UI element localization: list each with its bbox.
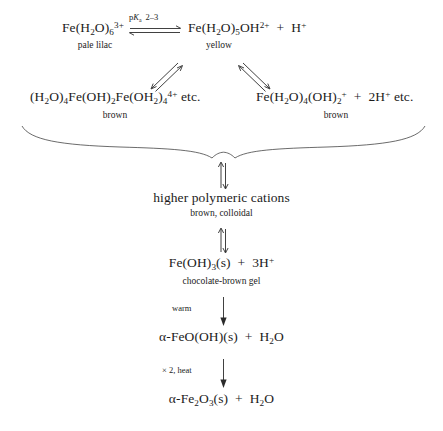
phase-label-brown-colloidal: brown, colloidal [0, 208, 443, 218]
converging-brace [22, 126, 425, 158]
arrow-to-goethite [220, 297, 226, 326]
species-dihydroxo-bridged-dimer: (H2O)4Fe(OH)2Fe(OH2)44+ etc. [30, 89, 201, 106]
condition-warm: warm [172, 303, 191, 313]
species-hexaaquairon: Fe(H2O)63+ [62, 20, 124, 37]
species-goethite: α-FeO(OH)(s) + H2O [0, 329, 443, 346]
top-equilibrium-arrow [129, 26, 181, 35]
phase-label-dihydroxo-brown: brown [256, 110, 416, 120]
phase-label-dimer-brown: brown [30, 110, 200, 120]
species-pentaaquahydroxoiron: Fe(H2O)5OH2+ + H+ [188, 20, 306, 37]
species-higher-polymeric-cations: higher polymeric cations [0, 190, 443, 206]
branch-arrow-left [151, 63, 183, 91]
condition-times-two-heat: × 2, heat [162, 365, 192, 375]
arrow-to-hematite [220, 359, 226, 388]
equilibrium-arrow-to-hydroxide [218, 228, 228, 253]
branch-arrow-right [239, 63, 271, 91]
phase-label-yellow: yellow [188, 40, 250, 50]
species-iron-hydroxide: Fe(OH)3(s) + 3H+ [0, 255, 443, 272]
phase-label-chocolate-brown-gel: chocolate-brown gel [0, 276, 443, 286]
equilibrium-arrow-to-polymeric [218, 162, 228, 189]
species-hematite: α-Fe2O3(s) + H2O [0, 391, 443, 408]
species-tetraaquadihydroxoiron: Fe(H2O)4(OH)2+ + 2H+ etc. [256, 89, 413, 106]
reaction-scheme: Fe(H2O)63+ pale lilac pKa2–3 Fe(H2O)5OH2… [0, 0, 443, 431]
condition-pka: pKa2–3 [129, 12, 158, 23]
phase-label-pale-lilac: pale lilac [62, 40, 128, 50]
